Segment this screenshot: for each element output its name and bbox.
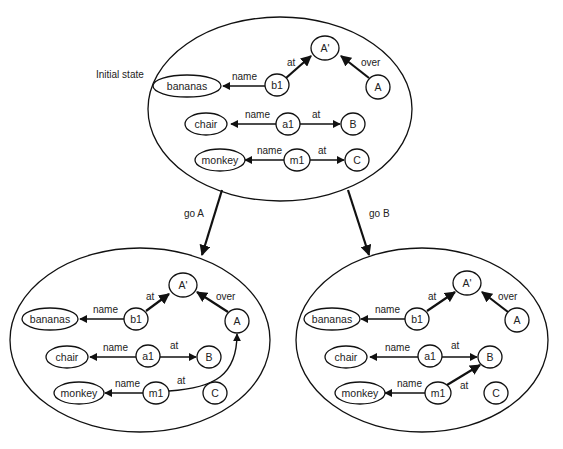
edge-label: name — [103, 342, 128, 353]
transitions: go A go B — [184, 190, 390, 255]
state-boundary — [148, 17, 412, 201]
edge-label: name — [93, 304, 118, 315]
node-label: monkey — [342, 387, 380, 399]
transition-go-b-arrow — [348, 190, 369, 255]
node-label: A — [513, 314, 520, 326]
node-label: a1 — [282, 118, 294, 130]
edge-label: over — [361, 57, 381, 68]
edge-label: name — [397, 378, 422, 389]
edge-label: name — [115, 378, 140, 389]
node-label: m1 — [290, 154, 305, 166]
node-label: C — [353, 154, 361, 166]
edge-label: at — [451, 340, 460, 351]
edge-label: name — [385, 342, 410, 353]
state-boundary — [10, 248, 270, 432]
state-go-b-graph: name at over name at name at bananas b1 … — [296, 248, 548, 432]
edge-label: name — [257, 145, 282, 156]
node-label: m1 — [149, 387, 164, 399]
diagram-canvas: Initial state name at over name at name … — [0, 0, 563, 449]
node-label: C — [492, 387, 500, 399]
edge-label: at — [460, 380, 469, 391]
node-label: bananas — [167, 80, 207, 92]
edge-label: at — [318, 145, 327, 156]
node-label: chair — [195, 118, 218, 130]
edge-label: at — [312, 109, 321, 120]
node-label: B — [486, 351, 493, 363]
node-label: b1 — [271, 79, 283, 91]
edge-label: at — [177, 375, 186, 386]
node-label: chair — [56, 351, 79, 363]
node-label: bananas — [30, 313, 70, 325]
node-label: bananas — [312, 313, 352, 325]
initial-state-graph: Initial state name at over name at name … — [96, 17, 412, 201]
node-label: B — [205, 351, 212, 363]
node-label: B — [349, 118, 356, 130]
node-label: monkey — [202, 154, 240, 166]
edge-label: at — [428, 291, 437, 302]
node-label: m1 — [431, 387, 446, 399]
edge-label: name — [375, 304, 400, 315]
state-boundary — [296, 248, 548, 432]
transition-go-a-arrow — [202, 190, 222, 255]
node-label: chair — [335, 351, 358, 363]
edge-label: at — [287, 57, 296, 68]
edge-label: over — [498, 291, 518, 302]
edge-label: name — [232, 71, 257, 82]
edge-label: at — [170, 340, 179, 351]
node-label: A' — [178, 279, 187, 291]
edge-label: over — [216, 291, 236, 302]
node-label: a1 — [142, 350, 154, 362]
transition-go-a-label: go A — [184, 208, 204, 219]
node-label: A — [374, 81, 381, 93]
node-label: A — [233, 315, 240, 327]
node-label: C — [211, 387, 219, 399]
edge-label: name — [245, 109, 270, 120]
node-label: A' — [320, 42, 329, 54]
initial-state-label: Initial state — [96, 69, 144, 80]
node-label: b1 — [411, 313, 423, 325]
transition-go-b-label: go B — [369, 208, 390, 219]
node-label: a1 — [424, 350, 436, 362]
node-label: b1 — [130, 313, 142, 325]
edge-label: at — [146, 291, 155, 302]
node-label: A' — [462, 277, 471, 289]
state-go-a-graph: name at over name at name at bananas b1 … — [10, 248, 270, 432]
node-label: monkey — [61, 387, 99, 399]
